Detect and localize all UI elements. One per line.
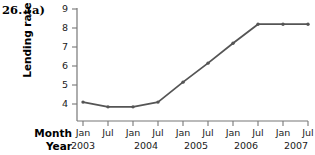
data-point [106, 105, 109, 108]
data-point [231, 42, 234, 45]
y-tick-label-7: 7 [54, 41, 68, 52]
month-tick-label-9: Jul [293, 127, 315, 138]
y-axis-title: Lending rate [21, 0, 33, 85]
data-point [131, 105, 134, 108]
data-point [256, 23, 259, 26]
y-tick-label-9: 9 [54, 3, 68, 14]
year-tick-label-2007: 2007 [276, 140, 315, 151]
month-row-label: Month [20, 127, 72, 139]
data-series-line [83, 24, 308, 107]
figure-container: 26. (a) [0, 0, 315, 155]
data-point [306, 23, 309, 26]
data-point [281, 23, 284, 26]
data-point-markers [81, 23, 309, 109]
data-point [156, 100, 159, 103]
data-point [181, 80, 184, 83]
year-tick-label-2005: 2005 [176, 140, 216, 151]
y-axis-ticks [72, 9, 77, 104]
data-point [81, 100, 84, 103]
year-tick-label-2004: 2004 [126, 140, 166, 151]
y-tick-label-5: 5 [54, 79, 68, 90]
y-tick-label-8: 8 [54, 22, 68, 33]
x-axis-ticks [83, 121, 308, 126]
year-tick-label-2006: 2006 [226, 140, 266, 151]
y-tick-label-6: 6 [54, 60, 68, 71]
year-tick-label-2003: 2003 [63, 140, 103, 151]
data-point [206, 61, 209, 64]
y-tick-label-4: 4 [54, 98, 68, 109]
